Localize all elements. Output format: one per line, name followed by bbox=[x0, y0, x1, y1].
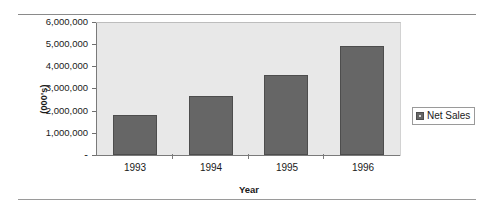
page-rule-bottom bbox=[18, 199, 476, 200]
page-rule-top bbox=[18, 14, 476, 15]
legend-swatch-icon bbox=[416, 112, 424, 120]
bar[interactable] bbox=[113, 115, 157, 155]
y-tick-label: 2,000,000 bbox=[46, 106, 88, 116]
bar-slot bbox=[173, 23, 249, 155]
bar-series-net-sales bbox=[97, 23, 400, 155]
bar[interactable] bbox=[264, 75, 308, 155]
y-tick-label: 5,000,000 bbox=[46, 39, 88, 49]
x-tick-label: 1995 bbox=[249, 162, 325, 173]
bar[interactable] bbox=[340, 46, 384, 155]
legend-label: Net Sales bbox=[427, 110, 470, 121]
y-tick-label: 3,000,000 bbox=[46, 83, 88, 93]
plot-area bbox=[96, 22, 401, 156]
bar-slot bbox=[324, 23, 400, 155]
bar-chart: (000's) 6,000,000 5,000,000 4,000,000 3,… bbox=[0, 16, 492, 196]
x-tick-label: 1994 bbox=[173, 162, 249, 173]
y-axis-tick-labels: 6,000,000 5,000,000 4,000,000 3,000,000 … bbox=[26, 16, 88, 155]
x-tick-label: 1993 bbox=[97, 162, 173, 173]
y-tick-label: 6,000,000 bbox=[46, 17, 88, 27]
y-tick-label: 4,000,000 bbox=[46, 61, 88, 71]
y-tick-label: 1,000,000 bbox=[46, 128, 88, 138]
x-tick-label: 1996 bbox=[325, 162, 401, 173]
chart-legend[interactable]: Net Sales bbox=[412, 107, 475, 125]
bar[interactable] bbox=[189, 96, 233, 155]
bar-slot bbox=[249, 23, 325, 155]
x-axis-tick-labels: 1993 1994 1995 1996 bbox=[97, 162, 401, 173]
bar-slot bbox=[97, 23, 173, 155]
y-tick-label-zero: - bbox=[84, 149, 88, 159]
x-axis-title: Year bbox=[97, 184, 401, 195]
